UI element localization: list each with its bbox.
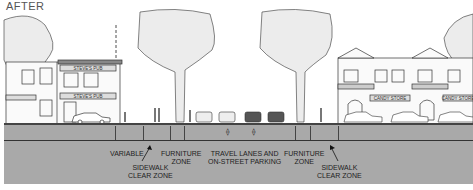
parked-cars-right — [344, 112, 473, 122]
label-sidewalk-clear-right: SIDEWALK CLEAR ZONE — [317, 164, 362, 180]
zone-tick — [338, 126, 339, 140]
tree-center-right — [260, 9, 332, 122]
zone-tick — [184, 126, 185, 140]
label-furniture-left: FURNITURE ZONE — [161, 150, 201, 166]
travel-lane-cars — [196, 112, 284, 122]
lane-marker-icon: ⟠ — [252, 128, 255, 136]
tree-center-left — [138, 9, 215, 122]
zone-tick — [115, 126, 116, 140]
lane-marker-icon: ⟠ — [226, 128, 229, 136]
label-line: TRAVEL LANES AND — [208, 150, 281, 158]
arrow-up-icon — [328, 144, 342, 162]
label-travel-lanes: TRAVEL LANES AND ON-STREET PARKING — [208, 150, 281, 166]
label-line: CLEAR ZONE — [128, 172, 173, 180]
ground-surface-line — [4, 123, 473, 125]
svg-text:CANDY STORE: CANDY STORE — [442, 96, 473, 101]
zone-tick — [295, 126, 296, 140]
label-sidewalk-clear-left: SIDEWALK CLEAR ZONE — [128, 164, 173, 180]
label-line: SIDEWALK — [317, 164, 362, 172]
label-line: ON-STREET PARKING — [208, 158, 281, 166]
section-divider-line — [4, 140, 473, 141]
label-line: ZONE — [161, 158, 201, 166]
svg-text:STEVE'S PUB: STEVE'S PUB — [73, 94, 102, 99]
svg-text:STEVE'S PUB: STEVE'S PUB — [73, 66, 102, 71]
label-variable: VARIABLE — [110, 150, 144, 158]
label-line: FURNITURE — [161, 150, 201, 158]
label-line: FURNITURE — [284, 150, 324, 158]
label-line: CLEAR ZONE — [317, 172, 362, 180]
arrow-up-icon — [140, 144, 154, 162]
zone-tick — [143, 126, 144, 140]
left-building: STEVE'S PUB STEVE'S PUB — [6, 60, 122, 124]
svg-text:CANDY STORE: CANDY STORE — [374, 96, 406, 101]
zone-tick — [310, 126, 311, 140]
zone-tick — [170, 126, 171, 140]
